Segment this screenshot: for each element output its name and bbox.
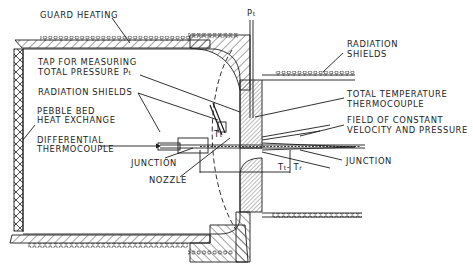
label-delta-t: Tt- Tr: [278, 163, 302, 173]
label-radiation-shields-left: RADIATION SHIELDS: [38, 88, 132, 98]
label-pt-sub: t: [253, 10, 256, 17]
label-field-line2: VELOCITY AND PRESSURE: [347, 126, 468, 136]
label-pt: Pt: [247, 9, 256, 19]
label-tt: Tt: [214, 130, 223, 140]
label-junction-right: JUNCTION: [346, 157, 392, 167]
label-delta-t-sub2: r: [299, 164, 302, 171]
nozzle-cross-section-diagram: GUARD HEATING TAP FOR MEASURING TOTAL PR…: [0, 0, 473, 266]
label-tap-line2: TOTAL PRESSURE Pt: [38, 68, 132, 78]
radiation-shield-coils-top: [275, 71, 355, 76]
leader-total-temperature: [255, 98, 344, 117]
leader-nozzle: [180, 138, 230, 177]
pebble-bed-left: [14, 49, 23, 231]
label-tt-sub: t: [220, 131, 223, 138]
label-tap-sub: t: [129, 69, 132, 76]
top-wall: [15, 40, 210, 48]
leader-pebble-bed: [23, 125, 35, 140]
label-radiation-right-line2: SHIELDS: [347, 50, 387, 60]
label-pebble-line2: HEAT EXCHANGE: [37, 116, 116, 126]
label-diff-line2: THERMOCOUPLE: [37, 145, 114, 155]
label-total-temp-line2: THERMOCOUPLE: [347, 100, 424, 110]
radiation-shield-coils-bottom: [272, 213, 362, 218]
label-delta-t-mid: - T: [287, 162, 300, 172]
bottom-wall: [10, 235, 210, 243]
label-tap-text: TOTAL PRESSURE P: [38, 67, 129, 77]
guard-heating-coils-top: [40, 36, 190, 41]
nozzle-upper-block: [240, 80, 262, 148]
leader-tap: [140, 75, 240, 112]
nozzle-lower-block: [240, 158, 262, 212]
label-junction-left: JUNCTION: [131, 159, 177, 169]
label-nozzle: NOZZLE: [149, 176, 187, 186]
guard-heating-coils-bottom: [28, 243, 188, 248]
leader-radiation-shields-right: [323, 53, 343, 72]
label-guard-heating: GUARD HEATING: [40, 11, 118, 21]
leader-junction-right: [300, 150, 342, 160]
leader-radiation-shields-1: [138, 93, 218, 120]
